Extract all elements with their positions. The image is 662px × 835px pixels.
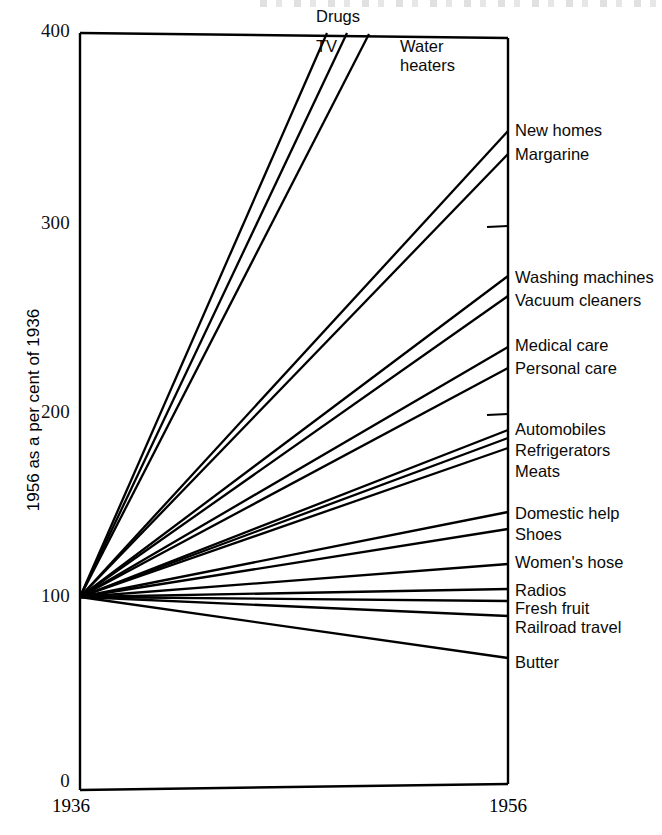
tick-300 [487, 226, 508, 227]
scan-artifact-top [260, 0, 660, 7]
series-label-radios: Radios [515, 582, 566, 599]
line-tv [80, 33, 327, 597]
line-new-homes [80, 131, 508, 597]
series-label-tv: TV [316, 37, 337, 55]
series-label-water-heaters-line1: Water [400, 37, 443, 55]
series-label-fresh-fruit: Fresh fruit [515, 600, 589, 617]
ytick-label-100: 100 [10, 585, 70, 607]
line-vacuum-cleaners [80, 296, 508, 597]
y-axis-title: 1956 as a per cent of 1936 [24, 280, 44, 540]
series-label-margarine: Margarine [515, 146, 589, 163]
series-label-automobiles: Automobiles [515, 421, 606, 438]
data-lines [80, 33, 508, 658]
tick-200 [487, 414, 508, 415]
series-label-water-heaters-line2: heaters [400, 56, 455, 74]
series-label-vacuum-cleaners: Vacuum cleaners [515, 292, 641, 309]
ytick-label-400: 400 [10, 20, 70, 42]
xtick-label-1936: 1936 [52, 795, 90, 817]
series-label-railroad-travel: Railroad travel [515, 619, 621, 636]
line-domestic-help [80, 512, 508, 597]
xtick-label-1956: 1956 [489, 795, 527, 817]
ytick-label-0: 0 [10, 770, 70, 792]
series-label-drugs: Drugs [316, 7, 360, 25]
y-tick-marks [487, 226, 508, 415]
line-washing-machines [80, 276, 508, 597]
series-label-womens-hose: Women's hose [515, 554, 623, 571]
axis-bottom [80, 784, 508, 790]
series-label-medical-care: Medical care [515, 337, 609, 354]
chart-figure: 400 300 200 100 0 1956 as a per cent of … [0, 0, 662, 835]
series-label-new-homes: New homes [515, 122, 602, 139]
line-margarine [80, 154, 508, 597]
ytick-label-300: 300 [10, 212, 70, 234]
series-label-washing-machines: Washing machines [515, 269, 654, 286]
series-label-shoes: Shoes [515, 526, 562, 543]
series-label-refrigerators: Refrigerators [515, 442, 610, 459]
series-label-meats: Meats [515, 463, 560, 480]
axis-top [80, 33, 508, 38]
series-label-butter: Butter [515, 654, 559, 671]
series-label-personal-care: Personal care [515, 360, 617, 377]
series-label-domestic-help: Domestic help [515, 505, 620, 522]
